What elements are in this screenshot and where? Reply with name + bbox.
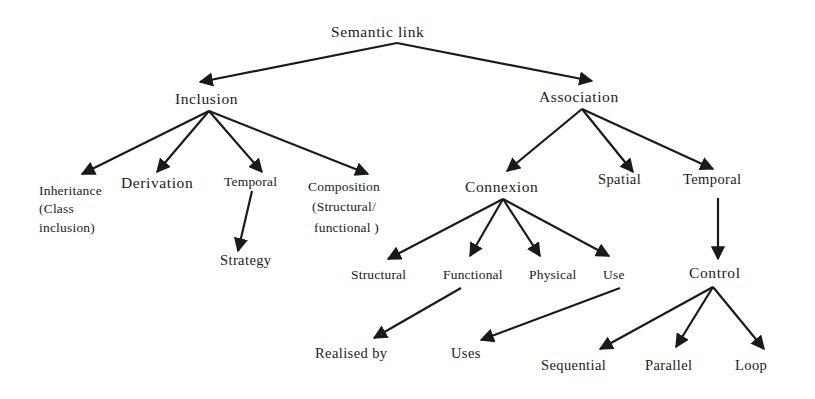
edge-inclusion-composition bbox=[209, 111, 368, 174]
node-temporal-inclusion: Temporal bbox=[224, 174, 277, 189]
node-temporal-association: Temporal bbox=[683, 171, 742, 187]
edge-root-association bbox=[397, 43, 592, 81]
edge-root-inclusion bbox=[200, 43, 397, 82]
node-inclusion: Inclusion bbox=[175, 90, 238, 107]
node-derivation: Derivation bbox=[121, 174, 193, 191]
semantic-link-tree-diagram: Semantic link Inclusion Association Inhe… bbox=[0, 0, 815, 399]
edges bbox=[82, 43, 764, 349]
node-loop: Loop bbox=[735, 357, 767, 373]
edge-inclusion-derivation bbox=[157, 111, 209, 172]
edge-inclusion-inheritance bbox=[82, 111, 209, 174]
edge-association-temporal bbox=[582, 109, 713, 169]
node-structural: Structural bbox=[351, 267, 406, 282]
edge-inclusion-temporal bbox=[209, 111, 262, 172]
edge-functional-realised-by bbox=[374, 288, 461, 338]
node-inheritance: Inheritance bbox=[39, 183, 102, 198]
node-inheritance-line2: (Class bbox=[39, 201, 74, 216]
edge-control-sequential bbox=[600, 287, 713, 349]
edge-connexion-use bbox=[503, 199, 609, 256]
node-composition: Composition bbox=[308, 179, 380, 194]
node-realised-by: Realised by bbox=[315, 345, 388, 361]
node-functional: Functional bbox=[443, 267, 503, 282]
node-spatial: Spatial bbox=[598, 171, 641, 187]
node-composition-line3: functional ) bbox=[314, 220, 379, 235]
edge-connexion-physical bbox=[503, 199, 540, 256]
node-uses: Uses bbox=[451, 345, 481, 361]
node-connexion: Connexion bbox=[465, 178, 538, 195]
node-parallel: Parallel bbox=[645, 357, 693, 373]
node-control: Control bbox=[689, 264, 741, 281]
edge-use-uses bbox=[481, 288, 620, 340]
node-physical: Physical bbox=[529, 267, 576, 282]
node-composition-line2: (Structural/ bbox=[312, 199, 376, 214]
edge-temporal-strategy bbox=[238, 191, 252, 251]
node-association: Association bbox=[539, 88, 619, 105]
node-inheritance-line3: inclusion) bbox=[39, 220, 95, 235]
edge-control-loop bbox=[713, 287, 764, 349]
node-use: Use bbox=[603, 267, 625, 282]
edge-association-spatial bbox=[582, 109, 633, 172]
edge-association-connexion bbox=[507, 109, 582, 171]
node-semantic-link: Semantic link bbox=[331, 23, 424, 40]
node-strategy: Strategy bbox=[220, 252, 272, 268]
node-sequential: Sequential bbox=[541, 357, 606, 373]
